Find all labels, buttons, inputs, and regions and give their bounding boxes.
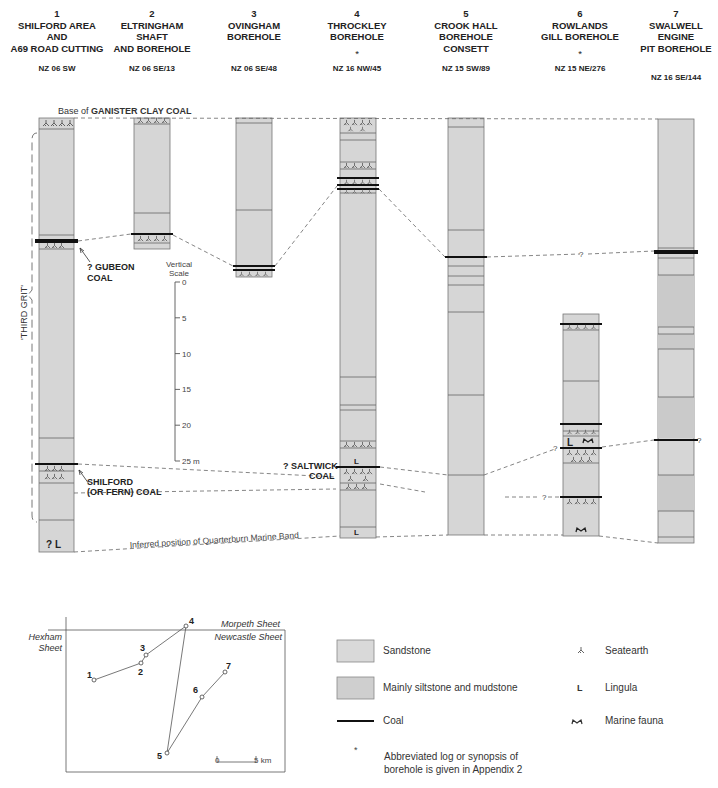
gubeon-arrow: [80, 248, 90, 262]
gubeon-coal-label: ? GUBEON: [87, 262, 135, 272]
quarterburn-marine-band-label: Inferred position of Quarterburn Marine …: [130, 530, 300, 550]
hexham-sheet-label: Sheet: [38, 643, 62, 653]
map-scale-end: 5 km: [254, 756, 272, 765]
shilford-coal-label: (OR FERN) COAL: [87, 487, 162, 497]
map-borehole-label: 4: [189, 616, 194, 626]
saltwick-coal-label: ? SALTWICK: [283, 461, 338, 471]
legend-marine-label: Marine fauna: [605, 715, 663, 726]
scale-tick-label: 0: [182, 278, 187, 287]
lingula-symbol: L: [354, 528, 359, 537]
third-grit-label: 'THIRD GRIT': [19, 285, 29, 340]
gubeon-coal-label: COAL: [87, 273, 113, 283]
lingula-icon: L: [577, 683, 583, 693]
scale-tick-label: 5: [182, 314, 187, 323]
column-5-log: [445, 118, 487, 535]
map-borehole-marker: [139, 661, 143, 665]
legend-appendix-note: Abbreviated log or synopsis of borehole …: [384, 750, 522, 776]
location-map: Morpeth Sheet Newcastle Sheet Hexham She…: [28, 616, 285, 772]
legend-lingula-label: Lingula: [605, 682, 637, 693]
map-borehole-marker: [165, 751, 169, 755]
map-borehole-label: 2: [138, 667, 143, 677]
legend-sandstone-label: Sandstone: [383, 645, 431, 656]
map-borehole-marker: [92, 678, 96, 682]
map-scale-start: 0: [215, 756, 220, 765]
asterisk-icon: *: [354, 745, 358, 755]
legend: L *: [337, 640, 584, 755]
svg-text:Vertical: Vertical: [166, 260, 192, 269]
seatearth-icon: [578, 647, 584, 653]
shilford-coal-label: SHILFORD: [87, 477, 133, 487]
scale-tick-label: 20: [182, 421, 191, 430]
map-borehole-label: 7: [226, 661, 231, 671]
column-7-log: [654, 119, 698, 543]
scale-tick-label: 15: [182, 385, 191, 394]
siltstone-swatch: [337, 677, 374, 699]
map-borehole-label: 6: [193, 685, 198, 695]
morpeth-sheet-label: Morpeth Sheet: [221, 619, 281, 629]
query-mark: ?: [697, 436, 702, 445]
hexham-sheet-label: Hexham: [28, 632, 62, 642]
query-mark: ?: [579, 250, 584, 259]
vertical-scale: Vertical Scale 0510152025 m: [166, 260, 200, 466]
query-mark: ?: [553, 444, 558, 453]
map-borehole-label: 5: [157, 751, 162, 761]
legend-siltstone-label: Mainly siltstone and mudstone: [383, 682, 518, 693]
ganister-clay-coal-label: Base of GANISTER CLAY COAL: [58, 106, 192, 116]
newcastle-sheet-label: Newcastle Sheet: [214, 632, 282, 642]
map-borehole-marker: [144, 653, 148, 657]
map-borehole-marker: [200, 695, 204, 699]
marine-fauna-icon: [572, 720, 582, 724]
legend-coal-label: Coal: [383, 715, 404, 726]
sandstone-swatch: [337, 640, 374, 662]
lingula-symbol: L: [354, 457, 359, 466]
column-2-log: [131, 118, 173, 249]
scale-tick-label: 10: [182, 350, 191, 359]
lingula-query-label: ? L: [46, 539, 61, 550]
column-4-log: L L: [336, 118, 380, 538]
map-borehole-marker: [184, 624, 188, 628]
map-borehole-label: 3: [140, 643, 145, 653]
column-6-log: L: [560, 314, 602, 536]
legend-seatearth-label: Seatearth: [605, 645, 648, 656]
query-mark: ?: [542, 493, 547, 502]
lingula-symbol: L: [567, 437, 573, 448]
saltwick-coal-label: COAL: [309, 471, 335, 481]
scale-tick-label: 25 m: [182, 457, 200, 466]
correlation-diagram: L L L: [0, 0, 718, 788]
column-3-log: [233, 118, 275, 277]
map-borehole-label: 1: [87, 670, 92, 680]
svg-text:Scale: Scale: [169, 269, 190, 278]
column-1-log: [35, 118, 78, 552]
